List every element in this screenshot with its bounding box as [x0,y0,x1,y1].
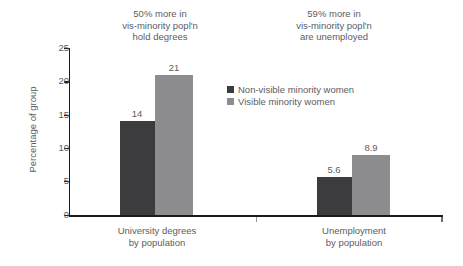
plot-area: 14 21 5.6 8.9 [70,48,443,215]
annotation-unemployment: 59% more in vis-minority popl'n are unem… [266,8,402,43]
legend-label-visible: Visible minority women [238,97,335,107]
bar-degrees-non-visible[interactable] [120,121,155,214]
y-tick-label-25: 25 [23,43,69,53]
y-tick-label-10: 10 [23,143,69,153]
x-axis-mid-tick [256,217,257,222]
bar-unemployment-non-visible[interactable] [317,177,352,214]
bar-label-unemployment-non-visible: 5.6 [312,165,356,175]
bar-label-degrees-visible: 21 [152,63,196,73]
bar-chart: 50% more in vis-minority popl'n hold deg… [0,0,463,266]
y-tick-label-0: 0 [23,210,69,220]
y-tick-label-5: 5 [23,176,69,186]
legend-item-visible[interactable]: Visible minority women [227,96,354,107]
bar-unemployment-visible[interactable] [352,155,390,214]
x-category-label-degrees: University degrees by population [93,225,221,248]
legend-swatch-icon-visible [227,98,234,105]
x-axis-end-tick [441,217,443,222]
legend: Non-visible minority women Visible minor… [227,84,354,108]
x-category-label-unemployment: Unemployment by population [290,225,418,248]
legend-item-non-visible[interactable]: Non-visible minority women [227,84,354,95]
bar-label-unemployment-visible: 8.9 [349,143,393,153]
legend-label-non-visible: Non-visible minority women [238,85,354,95]
bar-label-degrees-non-visible: 14 [115,109,159,119]
legend-swatch-icon-non-visible [227,86,234,93]
bar-degrees-visible[interactable] [155,75,193,215]
annotation-degrees: 50% more in vis-minority popl'n hold deg… [96,8,224,43]
y-tick-label-15: 15 [23,110,69,120]
y-tick-label-20: 20 [23,76,69,86]
